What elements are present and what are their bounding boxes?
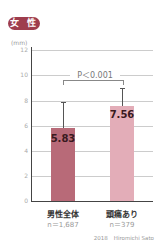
y-tick-8: 8 [10, 97, 28, 104]
y-tick-6: 6 [10, 122, 28, 129]
bar-value-headache: 7.56 [102, 109, 142, 120]
bar-headache [110, 106, 134, 201]
y-tick-10: 10 [10, 71, 28, 78]
significance-bracket [63, 80, 124, 85]
sample-size-all: n＝1,687 [33, 219, 93, 229]
y-axis-unit: (mm) [11, 39, 27, 46]
category-all: 男性全体 [33, 208, 93, 219]
credit: 2018 Hiromichi Sato [94, 234, 154, 242]
y-tick-2: 2 [10, 172, 28, 179]
gender-badge: 女 性 [8, 17, 40, 30]
x-axis [31, 201, 153, 202]
y-tick-0: 0 [10, 197, 28, 204]
error-cap [61, 102, 66, 103]
error-bar [122, 88, 123, 106]
y-axis [31, 47, 32, 201]
gridline [32, 126, 153, 127]
gridline [32, 101, 153, 102]
category-headache: 頭痛あり [92, 208, 152, 219]
error-bar [63, 102, 64, 128]
error-cap [120, 88, 125, 89]
gridline [32, 50, 153, 51]
sample-size-headache: n＝379 [92, 219, 152, 229]
significance-label: P＜0.001 [70, 69, 120, 80]
y-tick-12: 12 [10, 46, 28, 53]
y-tick-4: 4 [10, 147, 28, 154]
bar-value-all: 5.83 [43, 133, 83, 144]
